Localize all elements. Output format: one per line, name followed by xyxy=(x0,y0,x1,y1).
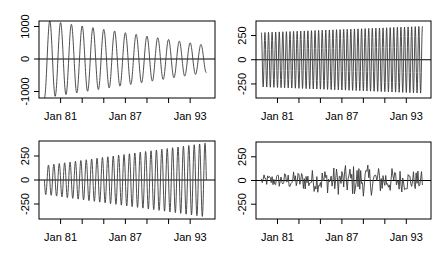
y-tick-label: -250 xyxy=(236,73,248,95)
x-tick-label: Jan 87 xyxy=(325,110,358,122)
x-tick-label: Jan 93 xyxy=(174,231,207,243)
series-line xyxy=(44,143,206,216)
y-tick-label: 0 xyxy=(19,56,31,62)
y-tick-label: 250 xyxy=(236,148,248,166)
y-tick-label: 1000 xyxy=(19,14,31,38)
x-tick-label: Jan 81 xyxy=(44,110,77,122)
y-tick-label: -250 xyxy=(236,193,248,215)
y-tick-label: -1000 xyxy=(19,77,31,105)
x-tick-label: Jan 81 xyxy=(261,231,294,243)
x-tick-label: Jan 93 xyxy=(174,110,207,122)
x-tick-label: Jan 87 xyxy=(109,110,142,122)
y-tick-label: -250 xyxy=(19,193,31,215)
panel-top-right: Jan 81Jan 87Jan 93-2500250 xyxy=(236,21,431,122)
panel-bottom-right: Jan 81Jan 87Jan 93-2500250 xyxy=(236,142,431,243)
x-tick-label: Jan 93 xyxy=(390,110,423,122)
y-tick-label: 0 xyxy=(236,177,248,183)
x-tick-label: Jan 87 xyxy=(325,231,358,243)
panel-bottom-left: Jan 81Jan 87Jan 93-2500250 xyxy=(19,141,215,243)
y-tick-label: 250 xyxy=(19,147,31,165)
x-tick-label: Jan 81 xyxy=(44,231,77,243)
x-tick-label: Jan 93 xyxy=(390,231,423,243)
y-tick-label: 0 xyxy=(236,57,248,63)
x-tick-label: Jan 87 xyxy=(109,231,142,243)
y-tick-label: 250 xyxy=(236,26,248,44)
panel-top-left: Jan 81Jan 87Jan 93-100001000 xyxy=(19,14,215,122)
stl-decomposition-figure: Jan 81Jan 87Jan 93-100001000 Jan 81Jan 8… xyxy=(0,0,444,259)
y-tick-label: 0 xyxy=(19,177,31,183)
x-tick-label: Jan 81 xyxy=(261,110,294,122)
